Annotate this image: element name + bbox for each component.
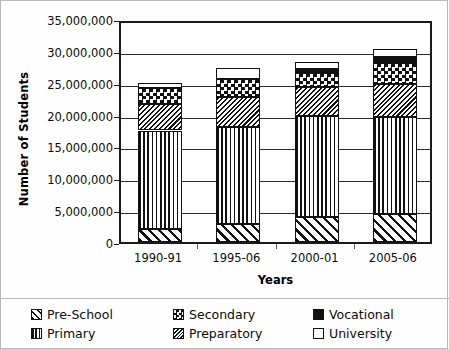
bar-segment-preparatory: [216, 97, 260, 127]
x-tick-mark: [197, 244, 198, 249]
bar-segment-university: [373, 49, 417, 57]
legend-swatch-university-icon: [313, 328, 324, 339]
legend-item-preschool[interactable]: Pre-School: [31, 307, 113, 322]
legend-swatch-secondary-icon: [173, 309, 184, 320]
bar-segment-vocational: [295, 69, 339, 73]
legend-label: Vocational: [329, 307, 394, 322]
bar-segment-preparatory: [373, 84, 417, 117]
legend-item-preparatory[interactable]: Preparatory: [173, 326, 262, 341]
legend-swatch-vocational-icon: [313, 309, 324, 320]
stacked-bar: [373, 19, 417, 242]
bar-segment-secondary: [295, 73, 339, 86]
legend-label: Primary: [47, 326, 95, 341]
legend-item-primary[interactable]: Primary: [31, 326, 95, 341]
bar-segment-secondary: [216, 79, 260, 97]
legend-label: Pre-School: [47, 307, 113, 322]
bar-segment-primary: [138, 131, 182, 230]
y-axis-title: Number of Students: [17, 59, 31, 219]
x-tick-label: 1995-06: [212, 251, 260, 265]
x-tick-label: 1990-91: [134, 251, 182, 265]
legend-swatch-primary-icon: [31, 328, 42, 339]
bar-segment-primary: [373, 117, 417, 214]
bar-segment-pre-school: [295, 217, 339, 242]
legend-label: University: [329, 326, 392, 341]
y-tick-label: 35,000,000: [1, 14, 113, 28]
bar-segment-university: [216, 68, 260, 79]
x-axis-title: Years: [119, 273, 432, 287]
stacked-bar: [295, 19, 339, 242]
legend-label: Preparatory: [189, 326, 262, 341]
legend-label: Secondary: [189, 307, 255, 322]
legend-item-secondary[interactable]: Secondary: [173, 307, 255, 322]
chart-region: 05,000,00010,000,00015,000,00020,000,000…: [1, 1, 449, 294]
stacked-bar: [138, 19, 182, 242]
stacked-bar: [216, 19, 260, 242]
x-tick-label: 2000-01: [291, 251, 339, 265]
x-tick-mark: [276, 244, 277, 249]
bar-segment-secondary: [138, 88, 182, 103]
x-tick-label: 2005-06: [369, 251, 417, 265]
bar-segment-primary: [295, 116, 339, 217]
legend-item-university[interactable]: University: [313, 326, 392, 341]
y-tick-mark: [114, 244, 119, 245]
bar-segment-university: [138, 83, 182, 88]
y-tick-label: 0: [1, 237, 113, 251]
x-tick-mark: [354, 244, 355, 249]
bar-segment-university: [295, 62, 339, 69]
bar-segment-pre-school: [216, 224, 260, 242]
bar-segment-primary: [216, 127, 260, 224]
bar-segment-preparatory: [138, 104, 182, 131]
bar-segment-vocational: [373, 57, 417, 63]
bar-segment-pre-school: [138, 229, 182, 242]
legend-swatch-preparatory-icon: [173, 328, 184, 339]
legend-item-vocational[interactable]: Vocational: [313, 307, 394, 322]
bar-segment-secondary: [373, 63, 417, 84]
bar-segment-pre-school: [373, 214, 417, 242]
legend-swatch-preschool-icon: [31, 309, 42, 320]
bar-segment-preparatory: [295, 87, 339, 117]
plot-area: [119, 21, 432, 244]
chart-legend: Pre-SchoolPrimarySecondaryPreparatoryVoc…: [1, 298, 449, 349]
y-tick-label: 30,000,000: [1, 46, 113, 60]
